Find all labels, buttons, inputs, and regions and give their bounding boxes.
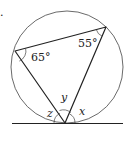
question-marker: . — [0, 6, 4, 19]
angle-arc-right — [96, 30, 102, 37]
circle-geometry-diagram: . 65° 55° y z x — [0, 0, 132, 144]
variable-label-z: z — [46, 107, 53, 120]
angle-label-55: 55° — [78, 37, 98, 50]
angle-arc-x — [70, 114, 75, 123]
variable-label-y: y — [60, 91, 68, 104]
variable-label-x: x — [79, 105, 86, 118]
angle-label-65: 65° — [31, 51, 51, 64]
